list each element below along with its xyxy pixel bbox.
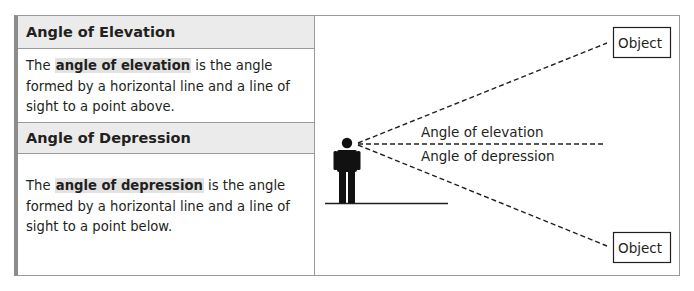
depression-label: Angle of depression [421,148,555,164]
object-bottom: Object [614,233,671,263]
person-icon [334,138,361,203]
object-bottom-label: Object [618,240,662,256]
angle-diagram: Angle of elevation Angle of depression O… [0,0,694,291]
elevation-label: Angle of elevation [421,124,544,140]
object-top: Object [614,28,671,58]
object-top-label: Object [618,35,662,51]
